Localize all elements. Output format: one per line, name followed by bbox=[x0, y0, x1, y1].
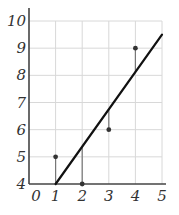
y-tick-label: 6 bbox=[16, 121, 26, 139]
x-tick-label: 3 bbox=[104, 187, 114, 205]
y-tick-labels: 45678910 bbox=[7, 12, 27, 193]
axes bbox=[29, 8, 166, 184]
data-point bbox=[106, 127, 111, 132]
x-tick-label: 4 bbox=[130, 187, 141, 205]
x-tick-label: 1 bbox=[51, 187, 61, 205]
scatter-chart: 012345 45678910 bbox=[0, 0, 179, 215]
data-point bbox=[133, 46, 138, 51]
data-point bbox=[80, 182, 85, 187]
residual-lines bbox=[56, 48, 136, 184]
grid bbox=[29, 21, 162, 184]
y-tick-label: 7 bbox=[16, 94, 26, 112]
data-points bbox=[53, 46, 138, 187]
y-tick-label: 4 bbox=[15, 175, 26, 193]
y-tick-label: 9 bbox=[16, 39, 26, 57]
x-tick-labels: 012345 bbox=[31, 187, 167, 205]
x-tick-label: 5 bbox=[157, 187, 167, 205]
x-tick-label: 2 bbox=[76, 187, 87, 205]
x-tick-label: 0 bbox=[31, 187, 41, 205]
y-tick-label: 10 bbox=[7, 12, 27, 30]
data-point bbox=[53, 154, 58, 159]
y-tick-label: 8 bbox=[16, 66, 26, 84]
y-tick-label: 5 bbox=[16, 148, 26, 166]
